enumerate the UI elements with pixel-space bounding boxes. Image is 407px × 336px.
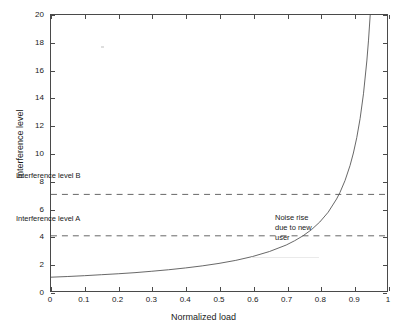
x-tick-mark bbox=[321, 287, 322, 291]
x-tick-label: 0.4 bbox=[180, 295, 191, 304]
x-tick-mark bbox=[254, 15, 255, 19]
x-tick-label: 0.2 bbox=[112, 295, 123, 304]
x-tick-mark bbox=[355, 287, 356, 291]
x-tick-label: 0.3 bbox=[146, 295, 157, 304]
noise-rise-curve-layer bbox=[51, 15, 387, 291]
x-tick-mark bbox=[254, 287, 255, 291]
x-tick-mark bbox=[51, 287, 52, 291]
scan-artifact-dotted-segment bbox=[251, 257, 319, 258]
y-tick-mark bbox=[51, 154, 55, 155]
x-tick-mark bbox=[85, 15, 86, 19]
y-tick-mark bbox=[383, 154, 387, 155]
y-tick-mark bbox=[383, 265, 387, 266]
x-tick-mark bbox=[220, 15, 221, 19]
y-tick-label: 0 bbox=[0, 288, 44, 297]
x-axis-title: Normalized load bbox=[0, 312, 407, 322]
x-tick-mark bbox=[152, 287, 153, 291]
y-tick-mark bbox=[51, 182, 55, 183]
y-tick-mark bbox=[51, 293, 55, 294]
x-tick-mark bbox=[152, 15, 153, 19]
y-tick-label: 18 bbox=[0, 37, 44, 46]
x-tick-mark bbox=[186, 287, 187, 291]
annotation-interference-level-a: Interference level A bbox=[16, 214, 80, 224]
chart-figure: 00.10.20.30.40.50.60.70.80.91 0246810121… bbox=[0, 0, 407, 336]
x-tick-mark bbox=[85, 287, 86, 291]
y-tick-mark bbox=[51, 98, 55, 99]
y-tick-mark bbox=[383, 182, 387, 183]
y-tick-mark bbox=[383, 15, 387, 16]
scan-artifact-speck bbox=[101, 46, 104, 48]
annotation-noise-rise: Noise rise due to new user bbox=[275, 213, 312, 243]
y-tick-label: 20 bbox=[0, 10, 44, 19]
y-tick-mark bbox=[383, 237, 387, 238]
x-tick-mark bbox=[355, 15, 356, 19]
y-tick-mark bbox=[383, 210, 387, 211]
y-tick-mark bbox=[383, 293, 387, 294]
y-tick-mark bbox=[51, 265, 55, 266]
x-tick-label: 0.6 bbox=[247, 295, 258, 304]
x-tick-label: 0.7 bbox=[281, 295, 292, 304]
y-tick-mark bbox=[51, 237, 55, 238]
x-tick-mark bbox=[389, 287, 390, 291]
x-tick-label: 0.5 bbox=[213, 295, 224, 304]
y-tick-mark bbox=[51, 43, 55, 44]
y-tick-mark bbox=[51, 126, 55, 127]
y-tick-mark bbox=[383, 43, 387, 44]
y-tick-label: 2 bbox=[0, 260, 44, 269]
y-tick-mark bbox=[51, 15, 55, 16]
x-tick-mark bbox=[186, 15, 187, 19]
x-tick-label: 0.9 bbox=[349, 295, 360, 304]
x-tick-label: 1 bbox=[386, 295, 390, 304]
x-tick-mark bbox=[119, 287, 120, 291]
y-tick-mark bbox=[383, 71, 387, 72]
plot-area bbox=[50, 14, 388, 292]
x-tick-mark bbox=[220, 287, 221, 291]
x-tick-mark bbox=[288, 15, 289, 19]
y-axis-title: Interference level bbox=[15, 54, 25, 234]
x-tick-label: 0.8 bbox=[315, 295, 326, 304]
x-tick-mark bbox=[321, 15, 322, 19]
x-tick-mark bbox=[288, 287, 289, 291]
y-tick-mark bbox=[51, 71, 55, 72]
annotation-interference-level-b: Interference level B bbox=[16, 171, 81, 181]
x-tick-mark bbox=[119, 15, 120, 19]
x-tick-label: 0 bbox=[48, 295, 52, 304]
x-tick-label: 0.1 bbox=[78, 295, 89, 304]
y-tick-mark bbox=[383, 126, 387, 127]
data-curve bbox=[51, 15, 370, 277]
x-tick-mark bbox=[389, 15, 390, 19]
y-tick-mark bbox=[51, 210, 55, 211]
y-tick-mark bbox=[383, 98, 387, 99]
